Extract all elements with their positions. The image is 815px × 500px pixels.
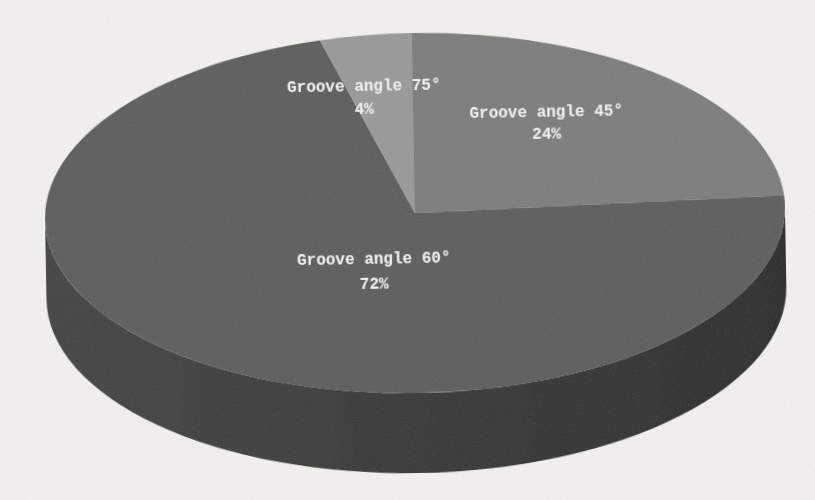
scan-noise-overlay	[0, 0, 815, 500]
scanned-figure: Groove angle 45° 24% Groove angle 60° 72…	[0, 0, 815, 500]
pie-chart: Groove angle 45° 24% Groove angle 60° 72…	[0, 0, 815, 500]
